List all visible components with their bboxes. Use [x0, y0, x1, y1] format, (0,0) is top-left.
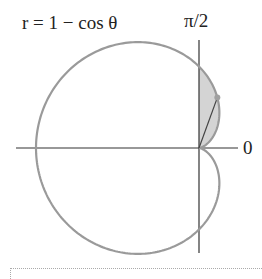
marked-point [214, 95, 220, 101]
pi-over-2-label: π/2 [184, 10, 208, 32]
caption-box [10, 268, 262, 279]
equation-label: r = 1 − cos θ [22, 12, 117, 34]
zero-angle-label: 0 [243, 137, 253, 159]
